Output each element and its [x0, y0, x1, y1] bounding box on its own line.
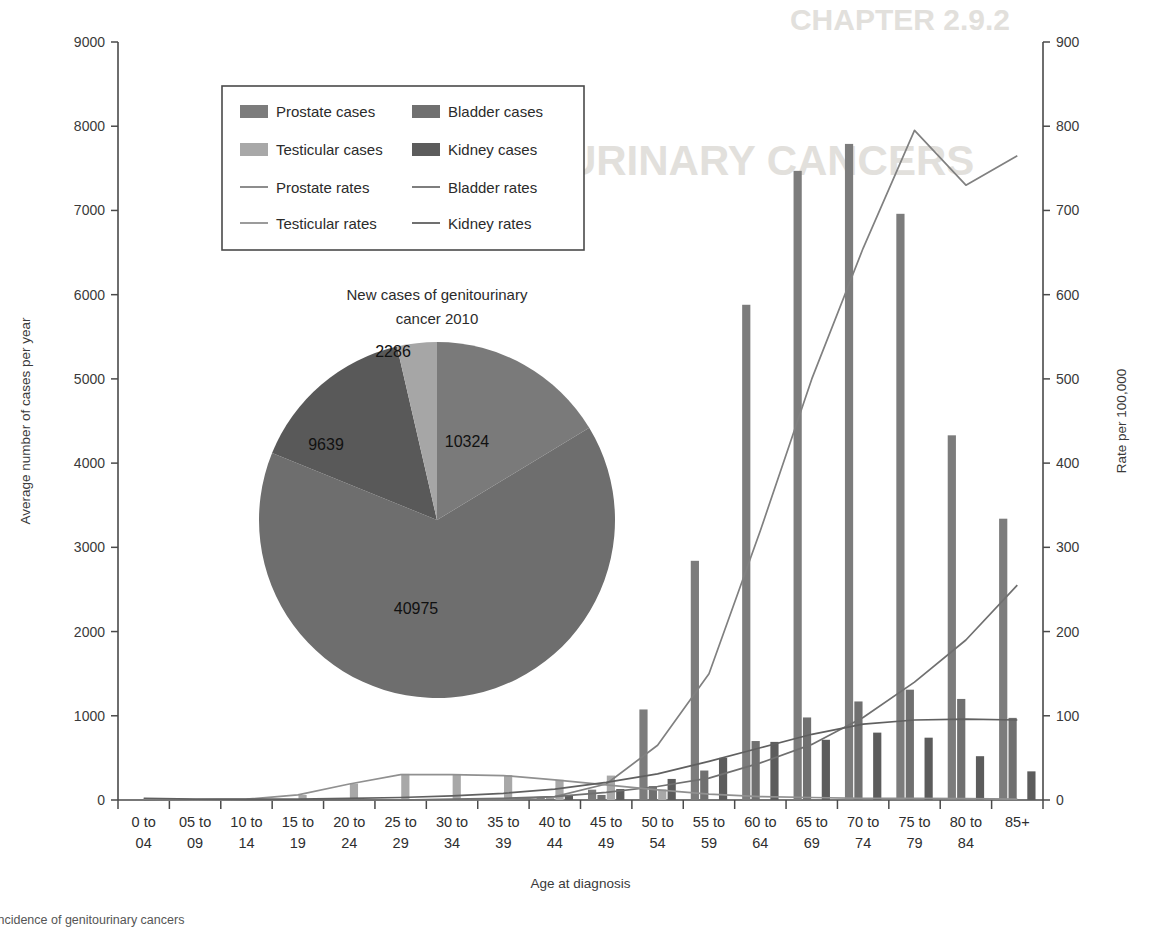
y-left-tick-label: 4000 — [74, 455, 105, 471]
pie-slice-value: 2286 — [375, 343, 411, 360]
y-left-axis-title: Average number of cases per year — [18, 317, 33, 524]
x-axis-title: Age at diagnosis — [531, 876, 631, 891]
y-left-tick-label: 8000 — [74, 118, 105, 134]
bar-kidney-cases — [976, 756, 984, 800]
y-left-tick-label: 1000 — [74, 708, 105, 724]
x-tick-label: 25 to — [385, 814, 417, 830]
x-ticks: 0 to0405 to0910 to1415 to1920 to2425 to2… — [118, 800, 1043, 851]
x-tick-label: 10 to — [230, 814, 262, 830]
y-right-axis-title: Rate per 100,000 — [1114, 369, 1129, 473]
y-left-tick-label: 3000 — [74, 539, 105, 555]
x-tick-label: 79 — [906, 835, 922, 851]
legend: Prostate casesBladder casesTesticular ca… — [222, 86, 584, 250]
y-right-tick-label: 800 — [1056, 118, 1080, 134]
pie-slice-value: 10324 — [445, 433, 490, 450]
x-tick-label: 59 — [701, 835, 717, 851]
y-right-tick-label: 200 — [1056, 624, 1080, 640]
x-tick-label: 70 to — [847, 814, 879, 830]
legend-item-label: Bladder rates — [448, 179, 537, 196]
genitourinary-cancer-chart: CHAPTER 2.9.2GENITOURINARY CANCERS010002… — [0, 0, 1163, 930]
bar-kidney-cases — [719, 758, 727, 800]
x-tick-label: 14 — [238, 835, 254, 851]
legend-item-label: Testicular rates — [276, 215, 377, 232]
bar-prostate-cases — [999, 519, 1007, 800]
bar-testicular-cases — [504, 775, 512, 800]
y-left-tick-label: 9000 — [74, 34, 105, 50]
x-tick-label: 35 to — [487, 814, 519, 830]
x-tick-label: 04 — [136, 835, 152, 851]
y-right-tick-label: 500 — [1056, 371, 1080, 387]
legend-item-label: Kidney rates — [448, 215, 531, 232]
bar-prostate-cases — [794, 171, 802, 800]
bar-bladder-cases — [597, 795, 605, 800]
line-kidney-rates — [144, 719, 1018, 799]
x-tick-label: 65 to — [796, 814, 828, 830]
y-left-tick-label: 2000 — [74, 624, 105, 640]
x-tick-label: 44 — [547, 835, 563, 851]
legend-item-label: Bladder cases — [448, 103, 543, 120]
x-tick-label: 24 — [341, 835, 357, 851]
x-tick-label: 40 to — [539, 814, 571, 830]
x-tick-label: 69 — [804, 835, 820, 851]
pie-slice-value: 9639 — [308, 436, 344, 453]
x-tick-label: 05 to — [179, 814, 211, 830]
bar-bladder-cases — [803, 717, 811, 800]
legend-swatch — [412, 143, 440, 156]
x-tick-label: 49 — [598, 835, 614, 851]
x-tick-label: 85+ — [1005, 814, 1030, 830]
x-tick-label: 45 to — [590, 814, 622, 830]
pie-slice-value: 40975 — [394, 600, 439, 617]
pie-chart: New cases of genitourinarycancer 2010228… — [259, 286, 615, 698]
x-tick-label: 50 to — [641, 814, 673, 830]
bar-prostate-cases — [845, 144, 853, 800]
x-tick-label: 54 — [650, 835, 666, 851]
legend-swatch — [240, 105, 268, 118]
x-tick-label: 09 — [187, 835, 203, 851]
y-left-tick-label: 7000 — [74, 202, 105, 218]
x-tick-label: 64 — [752, 835, 768, 851]
legend-item-label: Testicular cases — [276, 141, 383, 158]
y-right-tick-label: 900 — [1056, 34, 1080, 50]
x-tick-label: 39 — [495, 835, 511, 851]
figure-root: CHAPTER 2.9.2GENITOURINARY CANCERS010002… — [0, 0, 1163, 930]
bar-bladder-cases — [957, 699, 965, 800]
y-left-tick-label: 5000 — [74, 371, 105, 387]
bar-bladder-cases — [906, 690, 914, 800]
y-left-ticks: 0100020003000400050006000700080009000 — [74, 34, 118, 808]
bar-kidney-cases — [1027, 771, 1035, 800]
y-right-tick-label: 100 — [1056, 708, 1080, 724]
figure-caption: Incidence of genitourinary cancers — [0, 913, 184, 927]
x-tick-label: 60 to — [744, 814, 776, 830]
legend-item-label: Prostate rates — [276, 179, 369, 196]
bar-bladder-cases — [700, 771, 708, 800]
x-tick-label: 19 — [290, 835, 306, 851]
x-tick-label: 75 to — [898, 814, 930, 830]
x-tick-label: 20 to — [333, 814, 365, 830]
bar-kidney-cases — [668, 779, 676, 800]
bg-chapter-text: CHAPTER 2.9.2 — [790, 3, 1010, 36]
legend-swatch — [412, 105, 440, 118]
y-right-ticks: 0100200300400500600700800900 — [1043, 34, 1080, 808]
bar-testicular-cases — [401, 774, 409, 800]
x-tick-label: 29 — [393, 835, 409, 851]
y-right-tick-label: 700 — [1056, 202, 1080, 218]
x-tick-label: 84 — [958, 835, 974, 851]
bar-prostate-cases — [742, 305, 750, 800]
x-tick-label: 55 to — [693, 814, 725, 830]
x-tick-label: 34 — [444, 835, 460, 851]
bar-prostate-cases — [896, 214, 904, 800]
bar-bladder-cases — [546, 798, 554, 800]
bar-kidney-cases — [873, 733, 881, 800]
y-left-tick-label: 6000 — [74, 287, 105, 303]
y-right-tick-label: 0 — [1056, 792, 1064, 808]
x-tick-label: 80 to — [950, 814, 982, 830]
bar-kidney-cases — [822, 740, 830, 800]
y-right-tick-label: 400 — [1056, 455, 1080, 471]
x-tick-label: 74 — [855, 835, 871, 851]
bar-kidney-cases — [925, 738, 933, 800]
bar-bladder-cases — [854, 701, 862, 800]
legend-swatch — [240, 143, 268, 156]
y-right-tick-label: 600 — [1056, 287, 1080, 303]
bar-prostate-cases — [948, 435, 956, 800]
pie-title-line1: New cases of genitourinary — [347, 286, 528, 303]
